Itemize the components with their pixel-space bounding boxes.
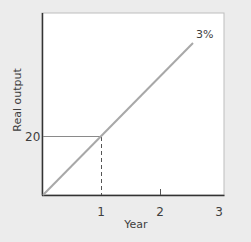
x-tick-label-2: 2 (156, 205, 164, 219)
chart-canvas: 3% 20 1 2 3 Year Real output (0, 0, 251, 242)
x-axis-label: Year (123, 218, 148, 231)
y-axis-label: Real output (11, 68, 24, 132)
series-label: 3% (196, 28, 213, 41)
y-tick-label-20: 20 (25, 130, 40, 144)
x-tick-label-3: 3 (215, 205, 223, 219)
x-tick-label-1: 1 (97, 205, 105, 219)
